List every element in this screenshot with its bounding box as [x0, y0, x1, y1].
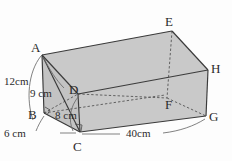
vertex-label-A: A: [31, 41, 40, 54]
vertex-label-H: H: [211, 62, 220, 75]
vertex-label-G: G: [209, 110, 218, 123]
dimension-label-6cm: 6 cm: [4, 128, 26, 139]
vertex-label-C: C: [73, 140, 82, 153]
dimension-label-8cm: 8 cm: [55, 110, 77, 121]
vertex-label-B: B: [28, 108, 37, 121]
geometry-figure: A B C D E F G H 12cm 9 cm 8 cm 6 cm 40cm: [0, 0, 232, 161]
vertex-label-E: E: [165, 15, 173, 28]
dimension-label-9cm: 9 cm: [30, 88, 52, 99]
dimension-label-40cm: 40cm: [126, 128, 150, 139]
dimension-label-12cm: 12cm: [4, 76, 28, 87]
brace-6cm: [36, 116, 44, 131]
solid-diagram: [0, 0, 232, 161]
vertex-label-D: D: [69, 83, 78, 96]
vertex-label-F: F: [165, 98, 172, 111]
